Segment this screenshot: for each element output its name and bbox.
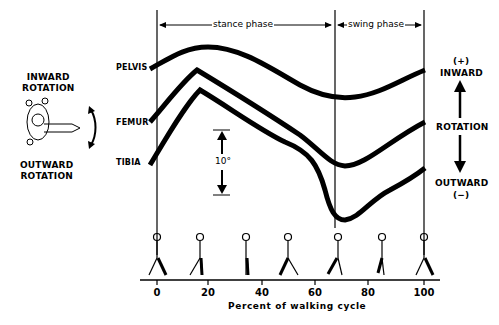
femur-curve — [150, 70, 425, 166]
x-tick: 20 — [201, 287, 215, 298]
pelvis-label: PELVIS — [116, 63, 147, 72]
inward-rotation-left: INWARD ROTATION — [22, 72, 75, 94]
outward-rotation-left: OUTWARD ROTATION — [20, 160, 73, 182]
minus-sign: (−) — [453, 190, 469, 200]
x-tick: 0 — [154, 287, 161, 298]
swing-phase-label: swing phase — [347, 19, 405, 29]
x-tick: 60 — [308, 287, 322, 298]
outward-label-right: OUTWARD — [435, 178, 488, 188]
rotation-chart — [0, 0, 499, 325]
scale-bar-label: 10° — [214, 156, 232, 166]
x-tick: 40 — [255, 287, 269, 298]
x-tick: 100 — [414, 287, 435, 298]
femur-label: FEMUR — [116, 118, 149, 127]
plus-sign: (+) — [453, 56, 469, 66]
x-axis-label: Percent of walking cycle — [228, 301, 366, 311]
stance-phase-label: stance phase — [212, 19, 274, 29]
tibia-curve — [150, 90, 425, 220]
inward-label-right: INWARD — [440, 68, 483, 78]
rotation-label-right: ROTATION — [436, 122, 489, 132]
tibia-label: TIBIA — [116, 158, 141, 167]
x-tick: 80 — [361, 287, 375, 298]
